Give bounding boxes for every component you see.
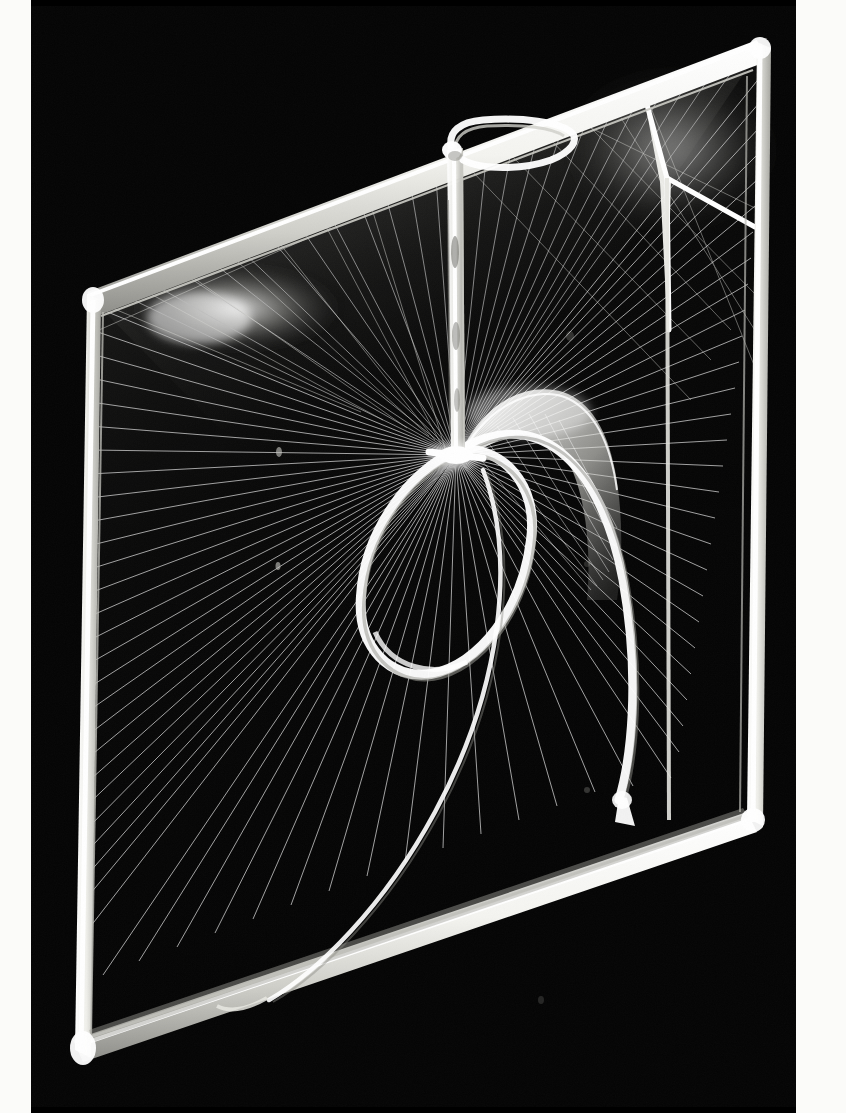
photo-border-right [796,0,846,1113]
photo-border-left [0,0,31,1113]
hook-bead-shadow [448,151,462,161]
central-node [422,437,490,473]
plate-top-mask [31,0,796,6]
plate-bottom-mask [31,1107,796,1113]
frame-corner-top-left [82,287,104,313]
frame-corner-top-right [749,37,771,59]
frame-corner-bottom-right [741,808,765,832]
vertical-mast [447,148,465,452]
string-sculpture-artwork [31,0,796,1113]
curved-arm-foot-node [612,791,632,809]
frame-corner-bottom-left [70,1031,96,1065]
specular-glow-top-left-2 [147,292,251,344]
photo-plate [31,0,796,1113]
photograph: constructivist string sculpture of clear… [0,0,846,1113]
